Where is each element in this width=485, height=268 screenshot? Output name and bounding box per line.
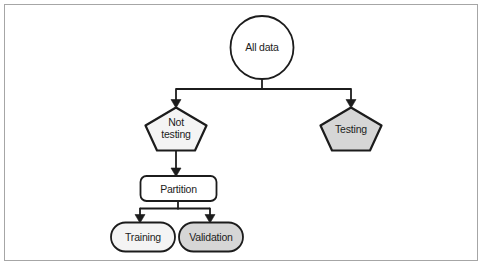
node-testing: Testing [321,108,382,151]
all-data-label: All data [245,41,279,53]
not-testing-label-line2: testing [161,128,191,140]
testing-label: Testing [335,123,367,135]
node-validation: Validation [179,223,243,252]
partition-label: Partition [160,183,197,195]
node-not-testing: Not testing [146,108,207,151]
node-training: Training [111,223,175,252]
validation-label: Validation [189,231,233,243]
data-split-flowchart: All data Not testing Testing Partition T… [0,0,485,268]
node-all-data: All data [231,16,294,79]
training-label: Training [125,231,161,243]
figure-canvas: All data Not testing Testing Partition T… [0,0,485,268]
not-testing-label-line1: Not [168,116,184,128]
node-partition: Partition [141,176,217,201]
